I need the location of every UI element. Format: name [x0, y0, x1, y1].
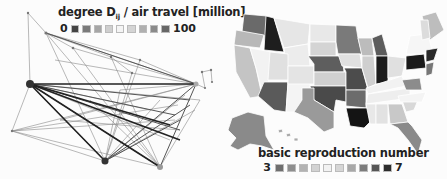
color-swatch [105, 25, 113, 33]
reproduction-number-legend-title: basic reproduction number [258, 146, 408, 160]
color-swatch [323, 164, 332, 172]
color-swatch [116, 25, 124, 33]
air-travel-legend-title: degree Dij / air travel [million] [58, 5, 198, 21]
color-swatch [150, 25, 158, 33]
color-swatch [82, 25, 90, 33]
color-swatch [94, 25, 102, 33]
color-swatch [139, 25, 147, 33]
color-swatch [371, 164, 380, 172]
color-swatch [161, 25, 169, 33]
air-travel-color-scale: 0 100 [58, 22, 198, 35]
scale-max-label: 7 [395, 161, 403, 174]
air-travel-legend: degree Dij / air travel [million] 0 100 [58, 5, 198, 35]
reproduction-number-legend: basic reproduction number 3 7 [258, 146, 408, 174]
us-choropleth-panel: basic reproduction number 3 7 [222, 0, 447, 179]
color-swatch [383, 164, 392, 172]
scale-min-label: 3 [263, 161, 271, 174]
color-swatch [359, 164, 368, 172]
color-swatch [311, 164, 320, 172]
color-swatch [275, 164, 284, 172]
color-swatch [287, 164, 296, 172]
scale-max-label: 100 [173, 22, 196, 35]
color-swatch [299, 164, 308, 172]
air-travel-network-panel: degree Dij / air travel [million] 0 100 [0, 0, 222, 179]
color-swatch [347, 164, 356, 172]
scale-min-label: 0 [60, 22, 68, 35]
reproduction-number-color-scale: 3 7 [258, 161, 408, 174]
color-swatch [335, 164, 344, 172]
color-swatch [71, 25, 79, 33]
color-swatch [127, 25, 135, 33]
